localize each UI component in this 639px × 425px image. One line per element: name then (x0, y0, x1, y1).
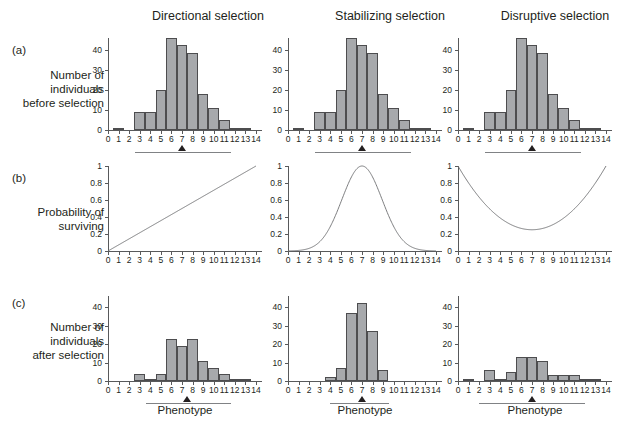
histogram-bar (399, 120, 410, 130)
y-tick-label: 20 (78, 86, 102, 94)
y-tick-label: 40 (258, 303, 282, 311)
histogram-bar (314, 112, 325, 130)
y-tick-label: 40 (78, 303, 102, 311)
y-tick-label: 40 (78, 46, 102, 54)
y-tick-label: 0 (78, 126, 102, 134)
histogram-bar (198, 361, 209, 381)
y-tick-label: 0 (428, 126, 452, 134)
histogram-bar (590, 379, 601, 381)
y-tick (105, 344, 108, 345)
x-tick-label: 14 (600, 135, 612, 144)
x-axis-line (458, 251, 612, 252)
histogram-bar (208, 368, 219, 381)
y-tick (105, 110, 108, 111)
y-tick (455, 307, 458, 308)
y-tick-label: 10 (428, 106, 452, 114)
y-axis-line (288, 38, 289, 130)
histogram-bar (219, 120, 230, 130)
column-header-disruptive: Disruptive selection (465, 8, 639, 24)
histogram-bar (516, 357, 527, 381)
histogram-bar (388, 108, 399, 130)
y-tick-label: 0.6 (78, 196, 102, 204)
y-tick-label: 0 (258, 377, 282, 385)
y-tick-label: 0 (78, 247, 102, 255)
histogram-bar (590, 128, 601, 130)
y-axis-line (288, 296, 289, 381)
histogram-bar (145, 379, 156, 381)
y-axis-line (108, 296, 109, 381)
histogram-bar (293, 128, 304, 130)
histogram-bar (580, 379, 591, 381)
histogram-bar (166, 339, 177, 382)
x-axis-line (288, 251, 442, 252)
histogram-bar (187, 339, 198, 382)
y-tick-label: 0.2 (258, 230, 282, 238)
xaxis-title-directional: Phenotype (105, 404, 265, 416)
selection-types-figure: Directional selection Stabilizing select… (0, 0, 639, 425)
mean-phenotype-arrow (183, 396, 191, 402)
y-axis-line (108, 38, 109, 130)
histogram-bar (113, 128, 124, 130)
y-tick (455, 50, 458, 51)
y-tick-label: 30 (428, 322, 452, 330)
survival-probability-curve (288, 166, 442, 251)
histogram-bar (240, 128, 251, 130)
x-axis-line (288, 381, 442, 382)
y-tick-label: 30 (78, 66, 102, 74)
y-tick (105, 307, 108, 308)
y-tick (285, 110, 288, 111)
y-tick-label: 40 (258, 46, 282, 54)
y-tick-label: 30 (78, 322, 102, 330)
y-tick (105, 70, 108, 71)
histogram-bar (230, 128, 241, 130)
y-tick-label: 0.4 (258, 213, 282, 221)
y-tick (105, 50, 108, 51)
panel-a-disruptive: 01020304001234567891011121314 (458, 38, 620, 164)
histogram-bar (166, 38, 177, 130)
histogram-bar (569, 120, 580, 130)
panel-c-directional: 01020304001234567891011121314 (108, 296, 270, 415)
histogram-bar (230, 379, 241, 381)
x-tick-label: 14 (430, 256, 442, 265)
y-tick-label: 20 (258, 86, 282, 94)
y-tick-label: 0.8 (78, 179, 102, 187)
x-tick-label: 14 (250, 386, 262, 395)
histogram-bar (506, 90, 517, 130)
x-tick-label: 14 (600, 256, 612, 265)
y-tick (105, 90, 108, 91)
histogram-bar (378, 370, 389, 381)
y-tick (285, 363, 288, 364)
histogram-bar (325, 112, 336, 130)
phenotype-range-bar (315, 152, 410, 153)
histogram-bar (336, 90, 347, 130)
histogram-bar (516, 38, 527, 130)
histogram-bar (357, 303, 368, 381)
y-tick-label: 30 (258, 66, 282, 74)
y-tick (285, 70, 288, 71)
y-tick (105, 326, 108, 327)
histogram-bar (219, 374, 230, 381)
histogram-bar (134, 374, 145, 381)
histogram-bar (134, 112, 145, 130)
y-tick-label: 20 (78, 340, 102, 348)
histogram-bar (357, 45, 368, 130)
y-tick (455, 326, 458, 327)
y-tick-label: 0 (428, 247, 452, 255)
panel-b-disruptive: 00.20.40.60.8101234567891011121314 (458, 166, 620, 285)
mean-phenotype-arrow (178, 145, 186, 151)
histogram-bar (156, 374, 167, 381)
x-tick-label: 14 (430, 386, 442, 395)
y-tick (285, 344, 288, 345)
histogram-bar (187, 53, 198, 130)
y-tick-label: 0 (428, 377, 452, 385)
x-axis-line (458, 381, 612, 382)
x-tick-label: 14 (250, 135, 262, 144)
survival-probability-curve (108, 166, 262, 251)
y-tick-label: 10 (428, 359, 452, 367)
histogram-bar (569, 375, 580, 381)
y-tick (285, 50, 288, 51)
y-tick-label: 10 (258, 106, 282, 114)
histogram-bar (177, 346, 188, 381)
histogram-bar (495, 112, 506, 130)
histogram-bar (177, 45, 188, 130)
